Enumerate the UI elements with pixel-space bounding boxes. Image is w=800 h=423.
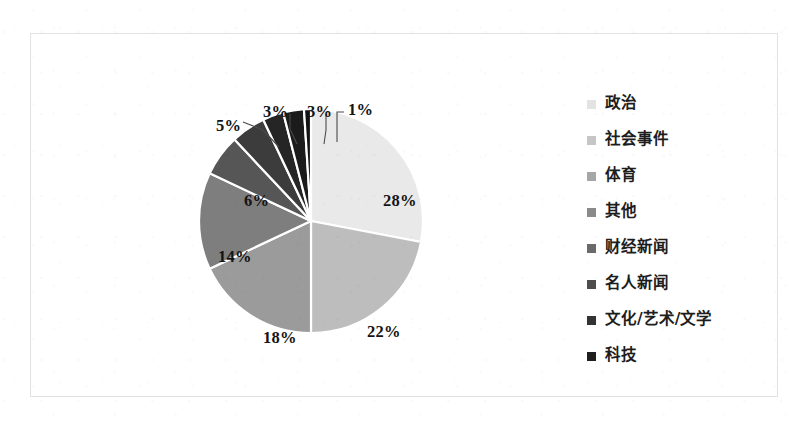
legend-item[interactable]: 名人新闻: [587, 266, 779, 302]
legend-swatch-icon: [587, 172, 596, 181]
pie-slice[interactable]: [311, 221, 421, 333]
legend-swatch-icon: [587, 316, 596, 325]
legend-item-label: 科技: [605, 348, 637, 364]
slice-value-label: 6%: [244, 191, 269, 211]
legend-item-label: 其他: [605, 204, 637, 220]
slice-callout-label: 3%: [307, 102, 332, 122]
chart-frame: 28%22%18%14%6%5%3%3%1% 政治社会事件体育其他财经新闻名人新…: [30, 33, 778, 397]
legend-item-label: 财经新闻: [605, 240, 669, 256]
chart-legend: 政治社会事件体育其他财经新闻名人新闻文化/艺术/文学科技: [587, 86, 779, 374]
legend-item[interactable]: 社会事件: [587, 122, 779, 158]
slice-value-label: 28%: [383, 191, 417, 211]
legend-item-label: 政治: [605, 96, 637, 112]
legend-swatch-icon: [587, 136, 596, 145]
legend-item[interactable]: 体育: [587, 158, 779, 194]
legend-swatch-icon: [587, 352, 596, 361]
legend-item-label: 文化/艺术/文学: [605, 312, 712, 328]
legend-item-label: 社会事件: [605, 132, 669, 148]
pie-svg: [31, 34, 591, 398]
legend-swatch-icon: [587, 280, 596, 289]
legend-item-label: 体育: [605, 168, 637, 184]
legend-swatch-icon: [587, 208, 596, 217]
legend-item[interactable]: 文化/艺术/文学: [587, 302, 779, 338]
pie-slices: [199, 109, 423, 333]
legend-item[interactable]: 政治: [587, 86, 779, 122]
slice-callout-label: 1%: [348, 100, 373, 120]
pie-chart: 28%22%18%14%6%5%3%3%1%: [31, 34, 591, 398]
legend-item[interactable]: 其他: [587, 194, 779, 230]
slice-callout-label: 5%: [216, 116, 241, 136]
slice-callout-label: 3%: [263, 102, 288, 122]
legend-item-label: 名人新闻: [605, 276, 669, 292]
slice-value-label: 18%: [263, 328, 297, 348]
pie-slice[interactable]: [311, 109, 423, 242]
slice-value-label: 22%: [367, 322, 401, 342]
legend-swatch-icon: [587, 244, 596, 253]
legend-item[interactable]: 科技: [587, 338, 779, 374]
legend-swatch-icon: [587, 100, 596, 109]
legend-item[interactable]: 财经新闻: [587, 230, 779, 266]
slice-value-label: 14%: [218, 247, 252, 267]
